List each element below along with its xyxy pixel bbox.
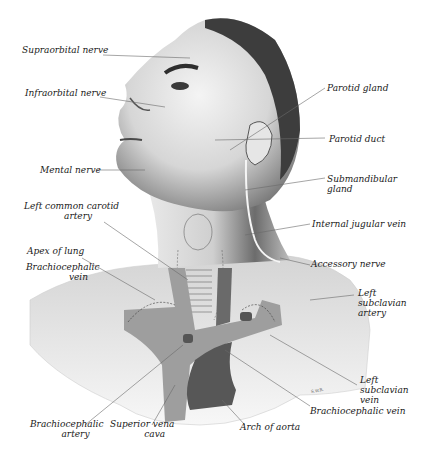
label-parotid-gland: Parotid gland: [327, 83, 388, 93]
label-infraorbital-nerve: Infraorbital nerve: [25, 88, 106, 98]
label-apex-of-lung: Apex of lung: [27, 246, 84, 256]
label-arch-of-aorta: Arch of aorta: [240, 422, 300, 432]
label-left-subclavian-artery: Left subclavian artery: [358, 288, 407, 318]
label-brachiocephalic-vein-right: Brachiocephalic vein: [310, 406, 405, 416]
label-supraorbital-nerve: Supraorbital nerve: [22, 45, 108, 55]
subclavian-artery-left: [240, 312, 252, 321]
label-accessory-nerve: Accessory nerve: [311, 259, 386, 269]
mouth: [120, 139, 142, 140]
eye: [171, 82, 189, 90]
label-superior-vena-cava: Superior vena cava: [110, 419, 174, 439]
internal-jugular-vein-shape: [216, 268, 232, 326]
label-brachiocephalic-artery: Brachiocephalic artery: [30, 419, 104, 439]
label-left-subclavian-vein: Left subclavian vein: [360, 375, 409, 405]
subclavian-artery-right: [183, 334, 193, 343]
label-left-common-carotid-artery: Left common carotid artery: [24, 201, 119, 221]
label-parotid-duct: Parotid duct: [329, 134, 385, 144]
anatomy-figure: Supraorbital nerve Infraorbital nerve Me…: [0, 0, 421, 449]
label-internal-jugular-vein: Internal jugular vein: [312, 219, 406, 229]
label-brachiocephalic-vein-left: Brachiocephalic vein: [26, 262, 100, 282]
label-mental-nerve: Mental nerve: [40, 165, 101, 175]
label-submandibular-gland: Submandibular gland: [327, 174, 397, 194]
